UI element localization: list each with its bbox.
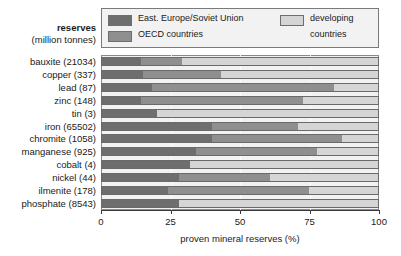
bar-segment [168,187,309,194]
x-tick-mark [101,210,102,214]
x-axis-title: proven mineral reserves (%) [101,233,379,244]
plot-area [101,55,379,210]
bar-row [101,109,379,118]
reserves-header: reserves (million tonnes) [0,22,96,46]
x-tick-label: 0 [81,216,121,227]
legend-row-1: East. Europe/Soviet Union developing [108,13,372,29]
bar-segment [317,148,378,155]
bar-segment [102,148,196,155]
bar-segment [102,187,168,194]
bar-segment [270,174,378,181]
bar-segment [212,123,298,130]
bar-segment [102,84,152,91]
bar-segment [342,135,378,142]
category-label: copper (337) [0,69,96,80]
bar-row [101,96,379,105]
category-label: iron (65502) [0,121,96,132]
legend-swatch-east-europe [108,15,132,26]
bar-segment [102,161,190,168]
legend-entry-developing: developing [280,13,354,26]
bar-segment [152,84,334,91]
chart-legend: East. Europe/Soviet Union developing OEC… [101,8,379,48]
x-tick-mark [379,210,380,214]
category-label: nickel (44) [0,172,96,183]
category-label: ilmenite (178) [0,185,96,196]
category-label: zinc (148) [0,95,96,106]
bar-segment [190,161,378,168]
x-tick-mark [240,210,241,214]
chart-figure: East. Europe/Soviet Union developing OEC… [0,0,401,256]
bar-row [101,173,379,182]
bar-segment [102,97,141,104]
bar-segment [141,58,182,65]
legend-entry-east-europe: East. Europe/Soviet Union [108,13,270,26]
bar-segment [196,148,317,155]
bar-row [101,57,379,66]
bar-segment [212,135,342,142]
bar-row [101,147,379,156]
legend-label-east-europe: East. Europe/Soviet Union [138,13,244,23]
x-tick-label: 50 [220,216,260,227]
bar-segment [309,187,378,194]
legend-swatch-spacer [280,31,304,42]
legend-entry-oecd: OECD countries [108,29,270,42]
bar-segment [141,97,304,104]
bar-segment [303,97,378,104]
bar-segment [102,135,212,142]
bar-segment [102,110,157,117]
bar-segment [179,174,270,181]
bar-segment [298,123,378,130]
category-label: bauxite (21034) [0,56,96,67]
bar-row [101,160,379,169]
bar-segment [179,200,378,207]
x-tick-label: 75 [290,216,330,227]
bar-row [101,186,379,195]
legend-swatch-developing [280,15,304,26]
bar-segment [221,71,378,78]
bar-row [101,122,379,131]
reserves-title: reserves [0,22,96,34]
legend-label-oecd: OECD countries [138,29,203,39]
bar-row [101,134,379,143]
x-tick-mark [171,210,172,214]
legend-label-developing: developing [310,13,354,23]
bar-segment [102,123,212,130]
bar-segment [334,84,378,91]
legend-entry-developing-cont: countries [280,29,347,42]
x-tick-mark [310,210,311,214]
category-label: phosphate (8543) [0,198,96,209]
legend-row-2: OECD countries countries [108,29,372,45]
category-label: manganese (925) [0,146,96,157]
x-tick-label: 25 [151,216,191,227]
category-axis-labels: bauxite (21034)copper (337)lead (87)zinc… [0,55,96,210]
legend-label-countries: countries [310,29,347,39]
bar-segment [182,58,378,65]
bar-segment [102,71,143,78]
bar-series-container [101,55,379,210]
bar-row [101,83,379,92]
category-label: tin (3) [0,108,96,119]
bar-row [101,70,379,79]
bar-row [101,199,379,208]
bar-segment [102,174,179,181]
bar-segment [102,200,179,207]
x-tick-label: 100 [359,216,399,227]
bar-segment [102,58,141,65]
legend-swatch-oecd [108,31,132,42]
reserves-units: (million tonnes) [0,34,96,46]
category-label: chromite (1058) [0,133,96,144]
category-label: lead (87) [0,82,96,93]
category-label: cobalt (4) [0,159,96,170]
bar-segment [143,71,220,78]
bar-segment [157,110,378,117]
